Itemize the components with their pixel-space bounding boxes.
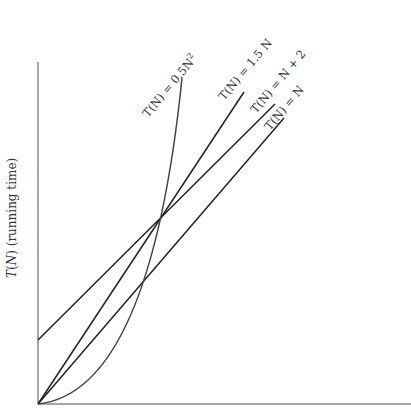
y-axis-label: T(N) (running time) — [5, 158, 19, 278]
chart-canvas: T(N) = 0.5N2 T(N) = 1.5 N T(N) = N + 2 T… — [0, 0, 411, 416]
line-1-5n — [38, 92, 244, 404]
label-quadratic: T(N) = 0.5N2 — [139, 51, 200, 120]
line-n — [38, 118, 284, 404]
line-n-plus-2 — [38, 104, 275, 340]
curve-quadratic — [38, 78, 182, 404]
